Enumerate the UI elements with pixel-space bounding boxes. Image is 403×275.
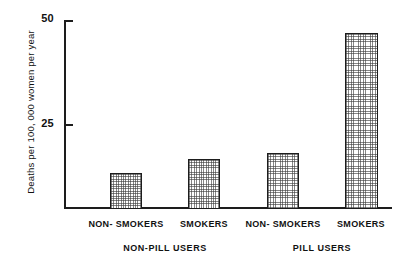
bar-pill-smokers <box>345 33 378 209</box>
bar-pill-nonsmokers <box>267 153 299 209</box>
group-label-pill-users: PILL USERS <box>262 243 382 253</box>
plot-area <box>64 20 392 209</box>
y-tick-label-25: 25 <box>24 117 54 129</box>
group-label-non-pill-users: NON-PILL USERS <box>105 243 225 253</box>
y-tick-label-50: 50 <box>24 12 54 24</box>
bar-nonpill-nonsmokers <box>110 173 142 209</box>
bar-chart-figure: Deaths per 100, 000 women per year 50 25… <box>0 0 403 275</box>
category-label-pill-smokers: SMOKERS <box>311 219 403 229</box>
bar-nonpill-smokers <box>188 159 220 209</box>
y-axis-title: Deaths per 100, 000 women per year <box>25 17 41 207</box>
